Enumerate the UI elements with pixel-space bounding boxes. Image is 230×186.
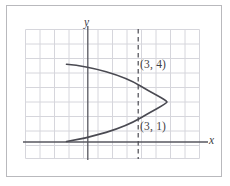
point-label-top: (3, 4) xyxy=(140,58,166,70)
figure-container: (3, 4) (3, 1) y x xyxy=(0,0,230,186)
grid-lines xyxy=(26,30,200,159)
point-label-bottom: (3, 1) xyxy=(140,120,166,132)
coordinate-plane xyxy=(0,0,230,186)
x-axis-label: x xyxy=(209,134,214,146)
y-axis-label: y xyxy=(84,16,89,28)
